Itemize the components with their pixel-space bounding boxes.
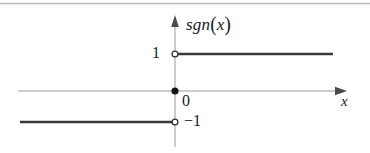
y-tick-label-negative-one: −1 [184,113,201,129]
open-endpoint-lower [172,119,178,125]
signum-function-figure: sgn(x) 1 0 −1 x [0,0,370,153]
function-open-paren: ( [210,13,217,34]
function-name-text: sgn [186,15,210,34]
function-arg-text: x [217,15,225,34]
closed-endpoint-origin [171,87,178,94]
y-tick-label-one: 1 [152,45,160,61]
y-axis-arrowhead [171,15,179,27]
origin-label: 0 [182,93,190,109]
x-axis-label: x [341,94,348,109]
function-label: sgn(x) [186,14,231,33]
function-close-paren: ) [225,13,232,34]
plot-canvas [0,0,370,153]
open-endpoint-upper [172,51,178,57]
